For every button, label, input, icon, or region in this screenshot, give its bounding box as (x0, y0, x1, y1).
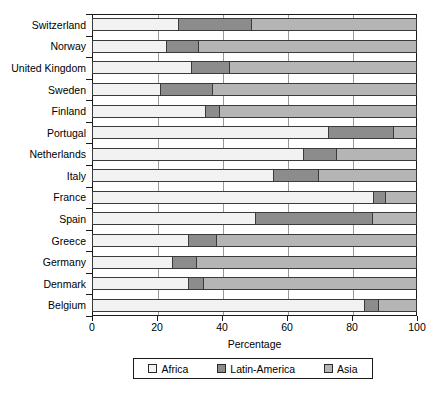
y-axis-label: France (53, 191, 86, 203)
bar-row (92, 18, 417, 31)
y-axis-label: Spain (59, 213, 86, 225)
bar-segment-asia (229, 61, 418, 74)
bar-row (92, 256, 417, 269)
y-axis-tick (86, 273, 92, 274)
bar-row (92, 40, 417, 53)
bar-segment-asia (251, 18, 417, 31)
bar-segment-asia (385, 191, 418, 204)
bar-segment-africa (92, 148, 303, 161)
legend-swatch-icon (217, 364, 226, 373)
legend-swatch-icon (148, 364, 157, 373)
bar-segment-asia (203, 277, 418, 290)
y-axis-tick (86, 294, 92, 295)
bar-row (92, 299, 417, 312)
x-axis-tick-label: 0 (72, 321, 112, 334)
y-axis-label: Greece (52, 235, 86, 247)
legend-label: Asia (337, 363, 357, 375)
legend-label: Africa (161, 363, 188, 375)
y-axis-tick (86, 122, 92, 123)
bar-segment-latin-america (172, 256, 196, 269)
legend-item: Latin-America (217, 363, 295, 375)
y-axis-label: Belgium (48, 299, 86, 311)
y-axis-label: Switzerland (32, 19, 86, 31)
bar-row (92, 234, 417, 247)
bar-segment-latin-america (160, 83, 212, 96)
y-axis-tick (86, 143, 92, 144)
bar-segment-latin-america (328, 126, 393, 139)
bar-row (92, 126, 417, 139)
bar-segment-latin-america (166, 40, 198, 53)
bar-row (92, 148, 417, 161)
stacked-bar-chart: SwitzerlandNorwayUnited KingdomSwedenFin… (0, 0, 447, 396)
y-axis-tick (86, 230, 92, 231)
y-axis-tick (86, 100, 92, 101)
bar-segment-asia (393, 126, 417, 139)
bar-row (92, 169, 417, 182)
bar-segment-asia (212, 83, 417, 96)
x-axis-tick-label: 60 (267, 321, 307, 334)
bar-row (92, 105, 417, 118)
y-axis-tick (86, 14, 92, 15)
bar-segment-latin-america (255, 212, 372, 225)
y-axis-label: Germany (43, 256, 86, 268)
y-axis-tick (86, 187, 92, 188)
bar-segment-latin-america (188, 234, 216, 247)
legend-item: Asia (324, 363, 357, 375)
bar-segment-latin-america (364, 299, 378, 312)
bar-segment-africa (92, 126, 328, 139)
legend-item: Africa (148, 363, 188, 375)
bar-segment-latin-america (373, 191, 384, 204)
y-axis-tick (86, 165, 92, 166)
y-axis-tick (86, 36, 92, 37)
x-axis-tick-label: 40 (202, 321, 242, 334)
bar-segment-asia (318, 169, 417, 182)
y-axis-tick (86, 57, 92, 58)
bar-segment-asia (378, 299, 417, 312)
bar-segment-africa (92, 169, 273, 182)
y-axis-label: Sweden (48, 84, 86, 96)
bar-segment-africa (92, 191, 373, 204)
bar-segment-africa (92, 18, 178, 31)
bars-layer (92, 14, 417, 316)
x-axis-tick-label: 20 (137, 321, 177, 334)
x-axis-tick-label: 100 (397, 321, 437, 334)
y-axis-tick (86, 251, 92, 252)
y-axis-label: Denmark (43, 278, 86, 290)
legend-label: Latin-America (230, 363, 295, 375)
bar-segment-asia (336, 148, 417, 161)
bar-row (92, 277, 417, 290)
y-axis-label: United Kingdom (11, 62, 86, 74)
bar-segment-latin-america (303, 148, 336, 161)
bar-segment-latin-america (205, 105, 219, 118)
bar-segment-africa (92, 83, 160, 96)
bar-segment-asia (372, 212, 418, 225)
bar-segment-africa (92, 212, 255, 225)
bar-row (92, 61, 417, 74)
bar-segment-asia (198, 40, 417, 53)
bar-segment-latin-america (178, 18, 251, 31)
bar-segment-asia (196, 256, 417, 269)
bar-segment-asia (219, 105, 417, 118)
y-axis-label: Finland (52, 105, 86, 117)
y-axis-label: Italy (67, 170, 86, 182)
legend: AfricaLatin-AmericaAsia (133, 358, 373, 379)
bar-segment-africa (92, 256, 172, 269)
bar-row (92, 83, 417, 96)
y-axis-label: Netherlands (29, 148, 86, 160)
y-axis-tick (86, 208, 92, 209)
y-axis-tick (86, 79, 92, 80)
bar-row (92, 191, 417, 204)
bar-row (92, 212, 417, 225)
bar-segment-africa (92, 234, 188, 247)
y-axis-label: Portugal (47, 127, 86, 139)
bar-segment-asia (216, 234, 418, 247)
bar-segment-africa (92, 277, 188, 290)
bar-segment-africa (92, 105, 205, 118)
bar-segment-latin-america (188, 277, 203, 290)
x-axis-title: Percentage (92, 338, 417, 350)
bar-segment-africa (92, 61, 191, 74)
bar-segment-latin-america (191, 61, 228, 74)
bar-segment-latin-america (273, 169, 318, 182)
y-axis-label: Norway (50, 40, 86, 52)
bar-segment-africa (92, 299, 364, 312)
